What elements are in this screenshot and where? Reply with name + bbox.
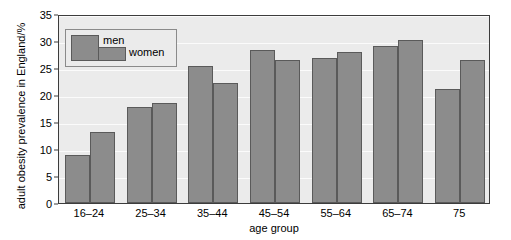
y-tick-label: 5 xyxy=(46,172,52,183)
x-tick-label: 75 xyxy=(453,207,465,219)
x-tick-label: 16–24 xyxy=(74,207,105,219)
bar-men-55-64 xyxy=(312,58,337,203)
bar-women-55-64 xyxy=(337,52,362,203)
bar-chart: adult obesity prevalence in England/% 05… xyxy=(0,0,511,240)
y-tick-label: 10 xyxy=(40,145,52,156)
bar-men-75 xyxy=(435,89,460,203)
x-tick-label: 55–64 xyxy=(320,207,351,219)
bar-men-16-24 xyxy=(65,155,90,203)
legend-label-men: men xyxy=(103,34,124,46)
y-tick-label: 0 xyxy=(46,199,52,210)
x-tick-label: 65–74 xyxy=(382,207,413,219)
bar-men-25-34 xyxy=(127,107,152,203)
bar-women-25-34 xyxy=(152,103,177,203)
legend-swatch-men xyxy=(71,35,99,61)
y-tick-label: 15 xyxy=(40,118,52,129)
x-tick-label: 25–34 xyxy=(135,207,166,219)
y-tick-label: 35 xyxy=(40,10,52,21)
y-tick-label: 25 xyxy=(40,64,52,75)
bar-men-65-74 xyxy=(373,46,398,203)
bar-women-16-24 xyxy=(90,132,115,203)
bar-men-35-44 xyxy=(188,66,213,203)
legend: men women xyxy=(65,29,177,67)
bar-women-75 xyxy=(460,60,485,203)
y-tick-label: 20 xyxy=(40,91,52,102)
y-axis-title: adult obesity prevalence in England/% xyxy=(15,21,27,211)
legend-label-women: women xyxy=(129,46,164,58)
y-tick-label: 30 xyxy=(40,37,52,48)
gridline xyxy=(59,16,489,17)
bar-women-35-44 xyxy=(213,83,238,203)
bar-women-45-54 xyxy=(275,60,300,203)
bar-women-65-74 xyxy=(398,40,423,203)
legend-swatch-women xyxy=(98,47,126,61)
bar-men-45-54 xyxy=(250,50,275,203)
x-tick-label: 35–44 xyxy=(197,207,228,219)
x-tick-label: 45–54 xyxy=(259,207,290,219)
x-axis-title: age group xyxy=(249,222,299,234)
y-axis: adult obesity prevalence in England/% 05… xyxy=(0,0,58,240)
